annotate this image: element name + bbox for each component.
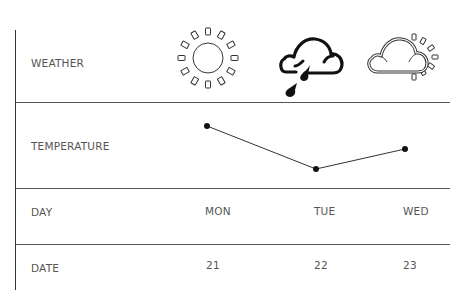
temp-point-tue (313, 166, 319, 172)
temp-point-mon (204, 123, 210, 129)
temp-point-wed (402, 146, 408, 152)
temperature-line-chart (0, 0, 463, 297)
